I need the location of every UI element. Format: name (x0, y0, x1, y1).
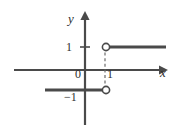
y-tick-label-1: 1 (66, 41, 72, 53)
y-tick-label-minus-1: −1 (64, 91, 77, 103)
origin-label: 0 (75, 68, 81, 80)
step-function-graph: y x 1 0 1 −1 (0, 0, 175, 130)
y-axis-arrowhead (80, 11, 89, 20)
open-circle-upper (102, 43, 109, 50)
graph-canvas (0, 0, 175, 130)
open-circle-lower (102, 86, 109, 93)
y-axis-label: y (68, 12, 74, 25)
x-axis-label: x (160, 66, 166, 79)
x-tick-label-1: 1 (107, 68, 113, 80)
